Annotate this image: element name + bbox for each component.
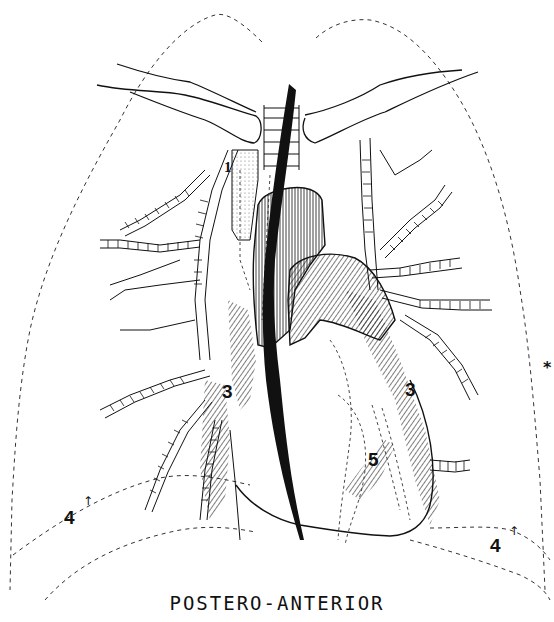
label-4-right: 4 — [490, 536, 501, 555]
clavicle-left — [305, 70, 462, 115]
arrow-up-icon: ↑ — [83, 494, 93, 508]
label-3-left: 3 — [222, 382, 233, 401]
clavicle-left-lower — [303, 72, 478, 143]
clavicle-right — [97, 85, 261, 143]
label-3-right: 3 — [405, 380, 416, 399]
arrow-up-icon: ↑ — [509, 524, 519, 538]
asterisk-marker: * — [543, 358, 551, 377]
label-5: 5 — [368, 450, 379, 469]
diaphragm-right-lower — [45, 527, 255, 600]
label-4-left: 4 — [64, 508, 75, 527]
label-1: 1 — [224, 160, 232, 175]
chest-diagram — [0, 0, 554, 622]
lung-outline-right — [10, 14, 262, 590]
clavicle-right-upper — [117, 64, 256, 112]
vena-cava — [232, 150, 258, 240]
figure-caption: POSTERO-ANTERIOR — [0, 592, 554, 614]
diaphragm-left-lower — [410, 540, 550, 600]
